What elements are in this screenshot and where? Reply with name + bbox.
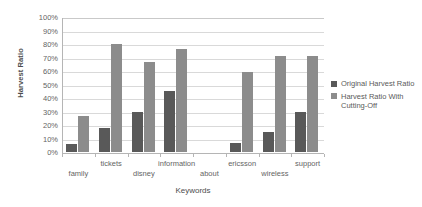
x-axis-tick-mark bbox=[193, 154, 194, 157]
bar-group bbox=[194, 17, 227, 152]
bar bbox=[242, 72, 253, 152]
x-axis-tick-mark bbox=[259, 154, 260, 157]
y-axis-tick-label: 40% bbox=[22, 95, 58, 103]
x-axis-category-label: support bbox=[295, 159, 320, 168]
legend-label: Harvest Ratio With Cutting-Off bbox=[341, 92, 419, 111]
bar bbox=[132, 112, 143, 153]
x-axis-category-label: disney bbox=[133, 169, 155, 178]
x-axis-category-label: wireless bbox=[261, 169, 288, 178]
legend-swatch bbox=[331, 93, 337, 99]
bar bbox=[111, 44, 122, 152]
x-axis-tick-mark bbox=[324, 154, 325, 157]
bar bbox=[307, 56, 318, 152]
x-axis-tick-mark bbox=[62, 154, 63, 157]
bar-group bbox=[292, 17, 325, 152]
bar-group bbox=[96, 17, 129, 152]
bar-group bbox=[63, 17, 96, 152]
bar-chart: Harvest Ratio 100%90%80%70%60%50%40%30%2… bbox=[0, 0, 422, 207]
x-axis-category-label: tickets bbox=[100, 159, 121, 168]
legend-entry: Original Harvest Ratio bbox=[331, 79, 419, 89]
bar bbox=[99, 128, 110, 152]
bar bbox=[176, 49, 187, 152]
x-axis-category-label: ericsson bbox=[228, 159, 256, 168]
bar bbox=[263, 132, 274, 152]
y-axis-tick-label: 80% bbox=[22, 41, 58, 49]
y-axis-tick-label: 10% bbox=[22, 136, 58, 144]
y-axis-tick-label: 20% bbox=[22, 122, 58, 130]
x-axis-tick-mark bbox=[128, 154, 129, 157]
y-axis-tick-label: 0% bbox=[22, 149, 58, 157]
y-axis-tick-label: 60% bbox=[22, 68, 58, 76]
x-axis-category-label: information bbox=[158, 159, 195, 168]
bar bbox=[144, 62, 155, 152]
y-axis-tick-label: 100% bbox=[22, 14, 58, 22]
legend-entry: Harvest Ratio With Cutting-Off bbox=[331, 92, 419, 111]
chart-legend: Original Harvest RatioHarvest Ratio With… bbox=[331, 79, 419, 114]
y-axis-tick-label: 30% bbox=[22, 109, 58, 117]
x-axis-tick-mark bbox=[291, 154, 292, 157]
x-axis-tick-mark bbox=[160, 154, 161, 157]
bar-group bbox=[129, 17, 162, 152]
legend-label: Original Harvest Ratio bbox=[341, 79, 419, 89]
legend-swatch bbox=[331, 81, 337, 87]
y-axis-tick-label: 50% bbox=[22, 82, 58, 90]
bar bbox=[230, 143, 241, 152]
y-axis-tick-label: 70% bbox=[22, 55, 58, 63]
bar bbox=[295, 112, 306, 153]
y-axis-tick-labels: 100%90%80%70%60%50%40%30%20%10%0% bbox=[18, 18, 58, 154]
x-axis-category-label: about bbox=[200, 169, 219, 178]
bar-group bbox=[161, 17, 194, 152]
plot-area bbox=[62, 18, 324, 154]
x-axis-tick-mark bbox=[226, 154, 227, 157]
x-axis-category-label: family bbox=[69, 169, 89, 178]
bar bbox=[78, 116, 89, 152]
bar bbox=[164, 91, 175, 152]
x-axis-title: Keywords bbox=[62, 186, 324, 195]
bar bbox=[66, 144, 77, 152]
x-axis-tick-mark bbox=[95, 154, 96, 157]
bar-group bbox=[260, 17, 293, 152]
bar-group bbox=[227, 17, 260, 152]
bar bbox=[275, 56, 286, 152]
y-axis-tick-label: 90% bbox=[22, 28, 58, 36]
